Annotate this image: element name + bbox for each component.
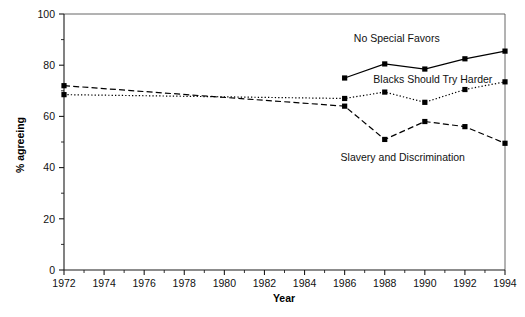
y-tick-label: 100 xyxy=(37,8,55,20)
data-point-marker xyxy=(382,89,387,94)
data-series xyxy=(61,83,507,146)
x-tick-label: 1978 xyxy=(173,277,197,289)
series-label: No Special Favors xyxy=(354,32,440,44)
y-axis-title: % agreeing xyxy=(14,117,26,173)
data-point-marker xyxy=(382,137,387,142)
x-tick-label: 1984 xyxy=(293,277,317,289)
frame-top-right xyxy=(64,14,505,270)
data-point-marker xyxy=(422,119,427,124)
data-point-marker xyxy=(61,83,66,88)
y-axis-ticks xyxy=(59,14,64,270)
plot-frame xyxy=(64,14,505,270)
series-line xyxy=(64,86,505,144)
data-point-marker xyxy=(502,49,507,54)
series-label: Slavery and Discrimination xyxy=(341,151,465,163)
x-tick-label: 1986 xyxy=(333,277,357,289)
x-tick-label: 1988 xyxy=(373,277,397,289)
x-axis-tick-labels: 1972197419761978198019821984198619881990… xyxy=(52,277,517,289)
y-tick-label: 80 xyxy=(43,59,55,71)
data-point-marker xyxy=(462,87,467,92)
data-point-marker xyxy=(61,92,66,97)
data-point-marker xyxy=(342,75,347,80)
y-tick-label: 0 xyxy=(49,264,55,276)
data-point-marker xyxy=(502,141,507,146)
x-tick-label: 1982 xyxy=(253,277,277,289)
data-point-marker xyxy=(382,61,387,66)
y-tick-label: 40 xyxy=(43,161,55,173)
data-series-layer xyxy=(61,49,507,146)
x-tick-label: 1976 xyxy=(133,277,157,289)
x-axis-ticks xyxy=(64,270,505,275)
y-tick-label: 20 xyxy=(43,213,55,225)
data-point-marker xyxy=(342,104,347,109)
x-tick-label: 1990 xyxy=(413,277,437,289)
chart-figure: 020406080100 197219741976197819801982198… xyxy=(0,0,525,317)
x-tick-label: 1994 xyxy=(493,277,517,289)
data-point-marker xyxy=(462,124,467,129)
data-point-marker xyxy=(502,79,507,84)
series-annotations: No Special FavorsBlacks Should Try Harde… xyxy=(341,32,493,163)
x-axis-title: Year xyxy=(273,292,295,304)
data-point-marker xyxy=(422,66,427,71)
x-tick-label: 1980 xyxy=(213,277,237,289)
x-tick-label: 1974 xyxy=(92,277,116,289)
x-tick-label: 1992 xyxy=(453,277,477,289)
axes xyxy=(64,14,505,270)
data-point-marker xyxy=(462,56,467,61)
series-line xyxy=(64,82,505,102)
data-point-marker xyxy=(422,100,427,105)
series-label: Blacks Should Try Harder xyxy=(373,73,493,85)
y-axis-tick-labels: 020406080100 xyxy=(37,8,55,276)
x-tick-label: 1972 xyxy=(52,277,76,289)
line-chart: 020406080100 197219741976197819801982198… xyxy=(0,0,525,317)
data-point-marker xyxy=(342,96,347,101)
y-tick-label: 60 xyxy=(43,110,55,122)
